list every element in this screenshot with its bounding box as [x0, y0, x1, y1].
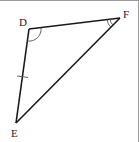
- vertex-label-E: E: [11, 127, 18, 139]
- angle-arc-F-inner: [110, 19, 113, 25]
- diagram-frame: D F E: [0, 0, 139, 142]
- side-FE: [16, 18, 120, 123]
- triangle-diagram: D F E: [0, 1, 139, 142]
- vertex-label-D: D: [19, 16, 27, 28]
- vertex-label-F: F: [123, 8, 129, 20]
- side-DF: [29, 18, 120, 29]
